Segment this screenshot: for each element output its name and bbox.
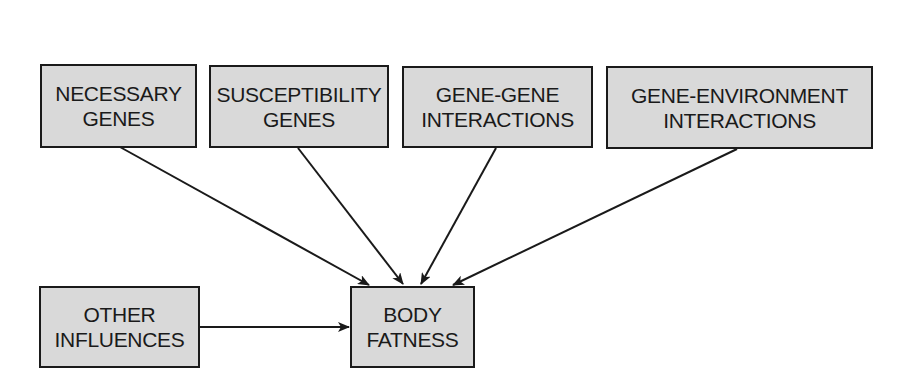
node-label-line: GENES <box>82 106 154 131</box>
node-body-fatness: BODY FATNESS <box>350 286 475 368</box>
arrow-geneenv-to-body <box>453 149 737 285</box>
arrow-genegene-to-body <box>421 148 496 284</box>
node-label-line: BODY <box>383 302 441 327</box>
node-label-line: INTERACTIONS <box>421 107 574 132</box>
node-label-line: INTERACTIONS <box>663 108 816 133</box>
node-gene-environment-interactions: GENE-ENVIRONMENT INTERACTIONS <box>606 66 873 149</box>
node-label-line: NECESSARY <box>55 81 181 106</box>
node-necessary-genes: NECESSARY GENES <box>40 64 197 148</box>
node-label-line: OTHER <box>83 302 155 327</box>
node-label-line: FATNESS <box>366 327 458 352</box>
node-label-line: INFLUENCES <box>54 327 184 352</box>
node-other-influences: OTHER INFLUENCES <box>39 286 200 368</box>
arrow-necessary-to-body <box>120 147 369 285</box>
node-susceptibility-genes: SUSCEPTIBILITY GENES <box>209 65 389 148</box>
node-gene-gene-interactions: GENE-GENE INTERACTIONS <box>402 66 593 148</box>
node-label-line: GENE-ENVIRONMENT <box>631 83 848 108</box>
node-label-line: GENES <box>263 107 335 132</box>
arrow-susceptibility-to-body <box>298 148 403 284</box>
node-label-line: SUSCEPTIBILITY <box>216 82 381 107</box>
node-label-line: GENE-GENE <box>436 82 559 107</box>
